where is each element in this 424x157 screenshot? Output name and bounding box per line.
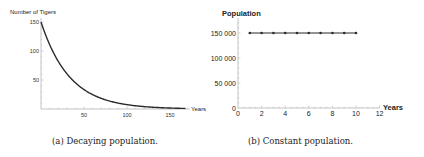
data-point bbox=[331, 32, 334, 35]
x-tick-label: 50 bbox=[81, 112, 87, 118]
figure: 5010015050100150Number of TigersYears 02… bbox=[0, 0, 424, 157]
x-tick-label: 0 bbox=[236, 110, 240, 117]
x-tick-label: 10 bbox=[352, 110, 360, 117]
data-point bbox=[355, 32, 358, 35]
x-tick-label: 150 bbox=[165, 112, 174, 118]
caption-b: (b) Constant population. bbox=[248, 136, 353, 146]
data-point bbox=[319, 32, 322, 35]
data-point bbox=[296, 32, 299, 35]
data-point bbox=[272, 32, 275, 35]
y-axis-label: Population bbox=[222, 9, 261, 18]
y-tick-label: 150 bbox=[30, 19, 39, 25]
y-tick-label: 50 000 bbox=[215, 80, 237, 87]
y-tick-label: 150 000 bbox=[211, 30, 236, 37]
data-point bbox=[249, 32, 252, 35]
y-tick-label: 50 bbox=[33, 77, 39, 83]
y-tick-label: 100 bbox=[30, 48, 39, 54]
data-point bbox=[308, 32, 311, 35]
x-axis-label: Years bbox=[383, 103, 403, 112]
y-axis-label: Number of Tigers bbox=[10, 9, 56, 15]
data-point bbox=[343, 32, 346, 35]
x-axis-label: Years bbox=[191, 106, 206, 112]
x-tick-label: 100 bbox=[122, 112, 131, 118]
constant-chart: 024681012050 000100 000150 000Population… bbox=[211, 9, 403, 117]
decay-curve bbox=[41, 22, 185, 108]
x-tick-label: 8 bbox=[330, 110, 334, 117]
y-tick-label: 0 bbox=[232, 105, 236, 112]
x-tick-label: 4 bbox=[283, 110, 287, 117]
caption-a: (a) Decaying population. bbox=[52, 136, 158, 146]
x-tick-label: 6 bbox=[307, 110, 311, 117]
data-point bbox=[284, 32, 287, 35]
decay-chart: 5010015050100150Number of TigersYears bbox=[10, 9, 206, 118]
data-point bbox=[260, 32, 263, 35]
y-tick-label: 100 000 bbox=[211, 55, 236, 62]
x-tick-label: 2 bbox=[260, 110, 264, 117]
